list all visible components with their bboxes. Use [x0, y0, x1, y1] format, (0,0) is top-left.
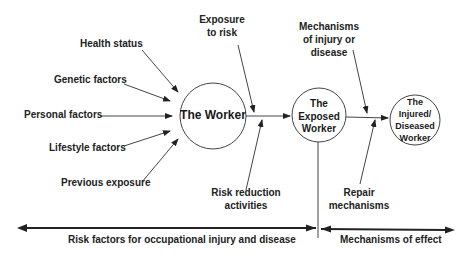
- label-lifestyle-factors: Lifestyle factors: [49, 141, 126, 154]
- mechanisms-line-1: Mechanisms: [296, 20, 362, 33]
- repair-line-1: Repair: [327, 186, 391, 199]
- node-exposed-worker: The Exposed Worker: [292, 98, 346, 136]
- injured-line-1: The: [390, 96, 440, 108]
- node-worker: The Worker: [180, 108, 246, 123]
- injured-line-4: Worker: [390, 132, 440, 144]
- label-repair-mechanisms: Repair mechanisms: [327, 186, 391, 212]
- label-health-status: Health status: [80, 37, 143, 50]
- risk-reduction-line-1: Risk reduction: [206, 186, 286, 199]
- exposed-line-1: The: [292, 98, 346, 111]
- label-previous-exposure: Previous exposure: [61, 176, 150, 189]
- exposure-line-2: to risk: [192, 26, 252, 39]
- label-risk-reduction: Risk reduction activities: [206, 186, 286, 212]
- label-mechanisms-of-injury: Mechanisms of injury or disease: [296, 20, 362, 59]
- exposed-line-2: Exposed: [292, 111, 346, 124]
- injured-line-2: Injured/: [390, 108, 440, 120]
- label-mechanisms-of-effect: Mechanisms of effect: [340, 233, 442, 246]
- repair-line-2: mechanisms: [327, 199, 391, 212]
- mechanisms-line-3: disease: [296, 46, 362, 59]
- exposed-line-3: Worker: [292, 123, 346, 136]
- mechanisms-line-2: of injury or: [296, 33, 362, 46]
- injured-line-3: Diseased: [390, 120, 440, 132]
- label-risk-factors-bottom: Risk factors for occupational injury and…: [68, 233, 296, 246]
- label-genetic-factors: Genetic factors: [54, 73, 127, 86]
- label-personal-factors: Personal factors: [24, 108, 102, 121]
- exposure-line-1: Exposure: [192, 13, 252, 26]
- risk-reduction-line-2: activities: [206, 199, 286, 212]
- label-exposure-to-risk: Exposure to risk: [192, 13, 252, 39]
- node-injured-worker: The Injured/ Diseased Worker: [390, 96, 440, 144]
